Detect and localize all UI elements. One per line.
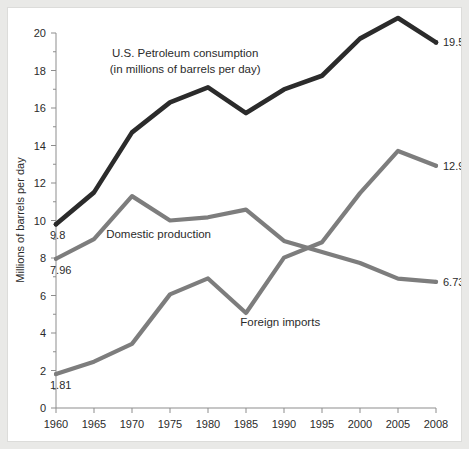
x-tick-label: 2000 bbox=[348, 418, 372, 430]
chart-subtitle: (in millions of barrels per day) bbox=[110, 63, 261, 75]
series-end-value-1: 19.5 bbox=[443, 36, 461, 48]
series-end-value-2: 6.73 bbox=[443, 276, 461, 288]
series-start-value-1: 9.8 bbox=[50, 229, 65, 241]
series-line-3 bbox=[56, 151, 436, 374]
y-tick-label: 12 bbox=[34, 177, 46, 189]
x-tick-label: 1960 bbox=[44, 418, 68, 430]
y-tick-label: 4 bbox=[40, 327, 46, 339]
x-tick-label: 1965 bbox=[82, 418, 106, 430]
series-end-marker-3 bbox=[434, 164, 438, 168]
series-start-value-2: 7.96 bbox=[50, 264, 71, 276]
y-axis-title: Millions of barrels per day bbox=[14, 157, 26, 283]
x-tick-label: 2008 bbox=[424, 418, 448, 430]
x-tick-label: 1970 bbox=[120, 418, 144, 430]
line-chart: 02468101214161820 1960196519701975198019… bbox=[8, 8, 461, 441]
x-tick-label: 1990 bbox=[272, 418, 296, 430]
y-tick-label: 20 bbox=[34, 27, 46, 39]
x-tick-label: 1980 bbox=[196, 418, 220, 430]
y-tick-label: 8 bbox=[40, 252, 46, 264]
y-tick-label: 14 bbox=[34, 140, 46, 152]
endpoint-labels-group: 9.819.57.966.731.8112.92 bbox=[50, 36, 461, 391]
x-tick-label: 1995 bbox=[310, 418, 334, 430]
series-end-marker-1 bbox=[434, 40, 439, 45]
x-axis-ticks: 1960196519701975198019851990199520002005… bbox=[44, 408, 448, 430]
y-tick-label: 18 bbox=[34, 65, 46, 77]
series-start-marker-1 bbox=[54, 222, 59, 227]
series-end-marker-2 bbox=[434, 280, 438, 284]
x-tick-label: 1985 bbox=[234, 418, 258, 430]
chart-title: U.S. Petroleum consumption bbox=[112, 47, 258, 59]
y-tick-label: 2 bbox=[40, 365, 46, 377]
x-tick-label: 1975 bbox=[158, 418, 182, 430]
series-annotation-1: Domestic production bbox=[106, 228, 211, 240]
series-end-value-3: 12.92 bbox=[443, 160, 461, 172]
y-axis-ticks: 02468101214161820 bbox=[34, 27, 56, 414]
x-tick-label: 2005 bbox=[386, 418, 410, 430]
chart-figure: 02468101214161820 1960196519701975198019… bbox=[8, 8, 461, 441]
y-tick-label: 16 bbox=[34, 102, 46, 114]
y-tick-label: 10 bbox=[34, 215, 46, 227]
series-start-marker-2 bbox=[54, 257, 58, 261]
y-tick-label: 6 bbox=[40, 290, 46, 302]
series-start-marker-3 bbox=[54, 372, 58, 376]
series-annotation-2: Foreign imports bbox=[240, 316, 320, 328]
y-tick-label: 0 bbox=[40, 402, 46, 414]
series-start-value-3: 1.81 bbox=[50, 379, 71, 391]
